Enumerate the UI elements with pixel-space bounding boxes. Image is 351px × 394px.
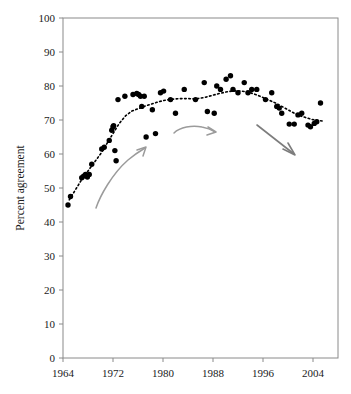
plot-frame (63, 18, 338, 358)
rising-phase-arrow (96, 148, 145, 208)
x-axis: 196419721980198819962004 (52, 358, 325, 379)
data-point (113, 158, 118, 163)
y-tick-label: 20 (44, 284, 56, 296)
data-point (299, 111, 304, 116)
data-point (142, 94, 147, 99)
data-point (68, 194, 73, 199)
data-point (89, 162, 94, 167)
data-point (235, 90, 240, 95)
y-tick-label: 90 (44, 46, 56, 58)
data-point (102, 145, 107, 150)
data-points (65, 73, 323, 208)
data-point (173, 111, 178, 116)
data-point (202, 80, 207, 85)
y-tick-label: 60 (44, 148, 56, 160)
data-point (153, 131, 158, 136)
y-axis: 0102030405060708090100 (39, 12, 64, 364)
scatter-plot-figure: 0102030405060708090100 19641972198019881… (0, 0, 351, 394)
decline-arrow-head (283, 143, 295, 155)
x-tick-label: 2004 (302, 367, 325, 379)
data-point (182, 87, 187, 92)
data-point (287, 121, 292, 126)
data-point (143, 134, 148, 139)
data-point (168, 97, 173, 102)
data-point (249, 87, 254, 92)
data-point (277, 105, 282, 110)
data-point (269, 90, 274, 95)
data-point (115, 97, 120, 102)
data-point (205, 109, 210, 114)
data-point (65, 202, 70, 207)
y-tick-label: 0 (50, 352, 56, 364)
data-point (87, 172, 92, 177)
y-tick-label: 50 (44, 182, 56, 194)
x-tick-label: 1988 (202, 367, 225, 379)
data-point (218, 87, 223, 92)
data-point (223, 77, 228, 82)
chart-canvas: 0102030405060708090100 19641972198019881… (0, 0, 351, 394)
data-point (107, 138, 112, 143)
x-tick-label: 1996 (252, 367, 275, 379)
data-point (230, 87, 235, 92)
data-point (111, 123, 116, 128)
data-point (254, 87, 259, 92)
y-tick-label: 100 (39, 12, 56, 24)
y-tick-label: 70 (44, 114, 56, 126)
data-point (314, 119, 319, 124)
data-point (161, 88, 166, 93)
data-point (150, 107, 155, 112)
y-tick-label: 40 (44, 216, 56, 228)
data-point (139, 104, 144, 109)
x-tick-label: 1980 (152, 367, 175, 379)
data-point (122, 94, 127, 99)
x-tick-label: 1972 (102, 367, 124, 379)
y-tick-label: 30 (44, 250, 56, 262)
data-point (193, 97, 198, 102)
data-point (112, 148, 117, 153)
data-point (242, 80, 247, 85)
y-axis-title: Percent agreement (14, 145, 27, 231)
x-tick-label: 1964 (52, 367, 75, 379)
annotation-arrows (96, 125, 295, 208)
data-point (318, 100, 323, 105)
data-point (292, 121, 297, 126)
decline-arrow (257, 125, 294, 154)
data-point (228, 73, 233, 78)
data-point (263, 97, 268, 102)
data-point (212, 111, 217, 116)
trend-line (69, 91, 323, 200)
data-point (279, 111, 284, 116)
y-tick-label: 10 (44, 318, 56, 330)
y-tick-label: 80 (44, 80, 56, 92)
